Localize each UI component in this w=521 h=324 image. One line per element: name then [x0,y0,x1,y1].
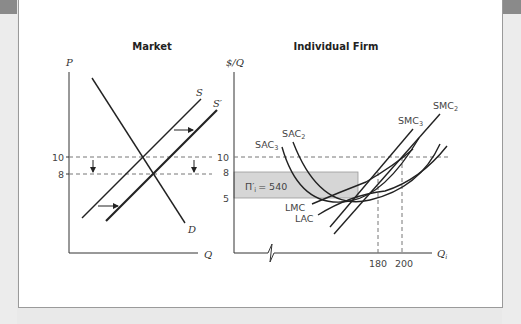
market-tick-8: 8 [58,169,64,180]
smc3-label: SMC3 [398,115,423,128]
sac3-label: SAC3 [255,139,278,152]
market-y-axis-label: P [65,57,73,68]
firm-tick-180: 180 [369,258,387,269]
market-tick-10: 10 [52,152,64,163]
supply-shifted-label: S′ [213,98,223,109]
firm-y-axis-label: $/Q [226,57,244,68]
firm-tick-8: 8 [223,167,229,178]
firm-tick-10: 10 [217,152,229,163]
economics-diagram: Market P Q 10 8 D S S′ Individual Firm $… [0,0,521,324]
firm-chart: Individual Firm $/Q Π′i= 540 Qi 10 8 5 1… [217,41,458,269]
demand-label: D [187,224,196,235]
firm-tick-5: 5 [223,193,229,204]
supply-curve [82,99,201,218]
lmc-label: LMC [285,202,305,213]
market-title: Market [132,41,172,52]
smc2-label: SMC2 [433,100,458,113]
lac-label: LAC [295,213,314,224]
market-chart: Market P Q 10 8 D S S′ [52,41,223,260]
firm-x-axis-label: Qi [437,248,447,261]
firm-tick-200: 200 [395,258,413,269]
market-x-axis-label: Q [204,249,212,260]
demand-curve [92,78,185,223]
supply-label: S [196,87,203,98]
sac2-label: SAC2 [282,128,305,141]
firm-title: Individual Firm [294,41,379,52]
